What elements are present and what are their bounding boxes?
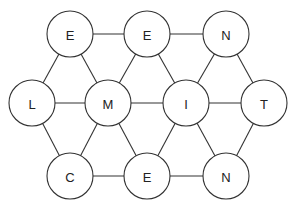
node-e-n9: E [124, 153, 170, 199]
node-c-n8: C [47, 153, 93, 199]
node-label: E [143, 170, 152, 185]
node-label: L [28, 97, 35, 112]
node-e-n2: E [124, 11, 170, 57]
node-label: N [221, 170, 230, 185]
node-n-n3: N [203, 11, 249, 57]
node-label: M [103, 97, 114, 112]
node-label: E [143, 28, 152, 43]
node-label: N [221, 28, 230, 43]
node-t-n7: T [241, 80, 287, 126]
node-label: I [184, 97, 188, 112]
node-n-n10: N [203, 153, 249, 199]
node-label: E [66, 28, 75, 43]
node-m-n5: M [85, 80, 131, 126]
letter-graph-diagram: EENLMITCEN [0, 0, 297, 209]
node-l-n4: L [9, 80, 55, 126]
node-i-n6: I [163, 80, 209, 126]
node-label: T [260, 97, 268, 112]
node-label: C [65, 170, 74, 185]
node-e-n1: E [47, 11, 93, 57]
nodes-layer: EENLMITCEN [9, 11, 287, 199]
